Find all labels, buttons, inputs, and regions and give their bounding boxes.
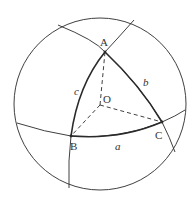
label-c-vertex: C [155,129,162,141]
label-side-c: c [74,85,79,97]
radius-ob [71,105,100,136]
spherical-triangle-diagram: A B C O a b c [0,0,196,205]
vertex-b [70,135,73,138]
vertex-c [161,121,164,124]
great-circle-top [105,20,134,52]
label-side-b: b [143,76,149,88]
side-b-arc [105,52,162,122]
side-a-arc [71,122,162,137]
label-side-a: a [115,140,121,152]
vertex-a [104,51,107,54]
label-b-vertex: B [70,140,77,152]
label-o-center: O [103,93,111,105]
label-a-vertex: A [100,36,108,48]
